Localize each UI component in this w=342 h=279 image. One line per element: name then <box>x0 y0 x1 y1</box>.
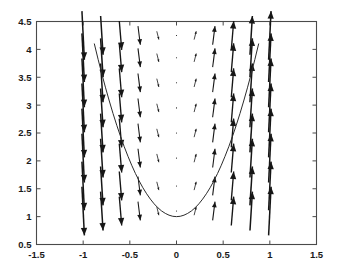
y-tick-label: 4 <box>26 44 32 55</box>
x-tick-label: 0 <box>174 249 179 260</box>
x-tick-label: -0.5 <box>122 249 139 260</box>
x-tick-label: -1 <box>79 249 88 260</box>
quiver-dot <box>176 158 177 159</box>
x-tick-label: -1.5 <box>28 249 45 260</box>
quiver-dot <box>176 132 177 133</box>
x-tick-label: 0.5 <box>217 249 231 260</box>
quiver-dot <box>176 82 177 83</box>
x-tick-label: 1 <box>267 249 273 260</box>
quiver-dot <box>176 57 177 58</box>
quiver-dot <box>176 107 177 108</box>
y-tick-label: 4.5 <box>18 16 32 27</box>
plot-background <box>0 0 342 279</box>
y-tick-label: 0.5 <box>18 239 32 250</box>
x-tick-label: 1.5 <box>310 249 324 260</box>
quiver-dot <box>176 185 177 186</box>
y-tick-label: 3.5 <box>18 72 32 83</box>
quiver-plot-svg: -1.5-1-0.500.511.5 0.511.522.533.544.5 <box>0 0 342 279</box>
y-tick-label: 2.5 <box>18 127 32 138</box>
y-tick-label: 3 <box>26 100 31 111</box>
y-tick-label: 2 <box>26 155 31 166</box>
y-tick-label: 1.5 <box>18 183 32 194</box>
figure-container: -1.5-1-0.500.511.5 0.511.522.533.544.5 <box>0 0 342 279</box>
quiver-dot <box>176 35 177 36</box>
y-tick-label: 1 <box>26 211 32 222</box>
quiver-dot <box>176 211 177 212</box>
